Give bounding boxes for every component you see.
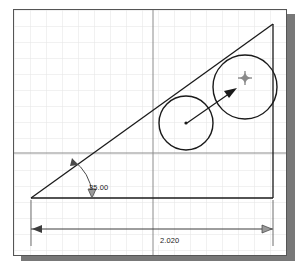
minor-grid bbox=[14, 10, 286, 255]
grid-layer bbox=[14, 10, 286, 255]
length-dimension-value[interactable]: 2.020 bbox=[158, 236, 181, 245]
cad-drawing-window[interactable]: 35.00 2.020 bbox=[13, 9, 287, 256]
cad-screenshot: 35.00 2.020 bbox=[0, 0, 301, 272]
angle-dimension-value[interactable]: 35.00 bbox=[89, 183, 108, 192]
cad-canvas[interactable] bbox=[14, 10, 286, 255]
